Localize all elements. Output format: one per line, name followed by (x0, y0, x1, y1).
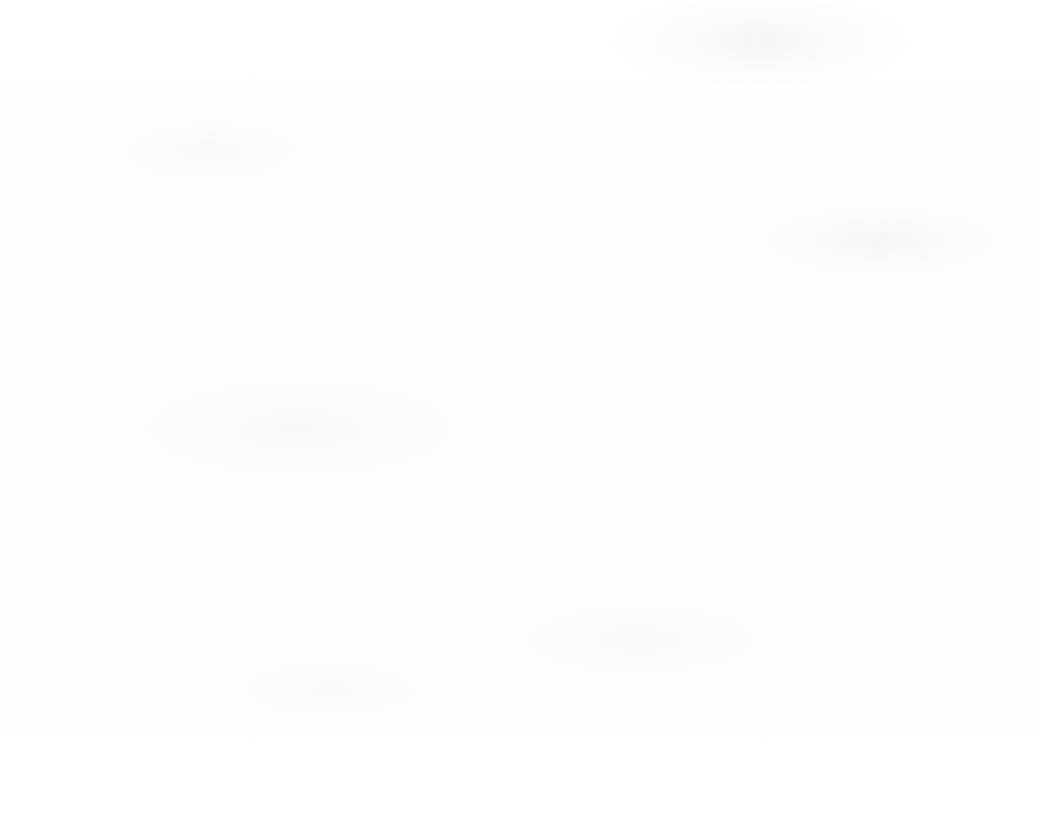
plot-area-phase-normalised: 1.5 1 0.5 0 -0.5 -1 -1.5 100 200 300 400… (0, 415, 520, 835)
x-tick-label: 300 (309, 355, 337, 374)
y-tick-labels: 1.5 1 0.5 0 -0.5 -1 -1.5 (73, 481, 102, 740)
data-traces-simulated-data (110, 54, 492, 344)
trace-line (110, 473, 492, 736)
trace-line (110, 482, 492, 720)
y-tick-label: -0.5 (571, 233, 600, 252)
x-tick-label: 200 (238, 355, 266, 374)
x-ticks (679, 340, 963, 348)
y-tick-labels: 1.5 1 0.5 0 -0.5 -1 -1.5 (571, 73, 600, 332)
trace-line (110, 77, 492, 319)
x-tick-label: 500 (949, 762, 977, 781)
panel-stdev-amplitude: Standard deviation of amplitude, STI=13.… (520, 415, 1041, 835)
x-tick-label: 400 (878, 355, 906, 374)
y-tick-label: -1 (87, 681, 102, 700)
x-ticks (181, 749, 465, 757)
y-tick-labels: 0.4 0.3 0.2 0.1 (576, 451, 600, 689)
y-tick-label: -1.5 (73, 721, 102, 740)
axis-lines (608, 458, 1000, 755)
y-tick-label: 0.5 (78, 137, 102, 156)
y-tick-label: 0 (93, 193, 102, 212)
trace-line (110, 54, 492, 344)
x-tick-labels: 100 200 300 400 500 (665, 762, 977, 781)
data-traces-amplitude-normalised (608, 55, 990, 346)
y-tick-label: -0.5 (73, 641, 102, 660)
x-tick-label: 500 (451, 764, 479, 783)
trace-line (110, 477, 492, 731)
y-tick-label: -1 (87, 305, 102, 324)
x-tick-label: 500 (451, 355, 479, 374)
y-tick-label: 0.4 (576, 451, 600, 470)
panel-phase-normalised: Phase normalised pattern (z-score) relat… (0, 415, 520, 835)
y-tick-label: 1 (93, 521, 102, 540)
x-tick-label: 400 (380, 355, 408, 374)
x-tick-label: 500 (949, 355, 977, 374)
trace-line (608, 73, 990, 328)
y-tick-label: -1 (585, 273, 600, 292)
trace-line (110, 479, 492, 735)
y-tick-label: 0.3 (576, 524, 600, 543)
y-tick-label: 1 (591, 113, 600, 132)
trace-line (110, 481, 492, 735)
trace-line (110, 472, 492, 755)
y-tick-label: -0.5 (73, 249, 102, 268)
trace-line (608, 71, 990, 316)
y-tick-label: 1.5 (576, 73, 600, 92)
y-tick-label: -1.5 (571, 313, 600, 332)
trace-line (110, 79, 492, 312)
y-tick-label: 1 (93, 81, 102, 100)
x-tick-label: 300 (807, 762, 835, 781)
x-tick-labels: 100 200 300 400 500 (665, 355, 977, 374)
x-tick-label: 400 (878, 762, 906, 781)
y-tick-label: 0.5 (78, 561, 102, 580)
y-tick-label: 0 (591, 193, 600, 212)
y-ticks (608, 460, 616, 679)
trace-line (608, 55, 990, 346)
data-traces-phase-normalised (110, 469, 492, 755)
x-tick-label: 100 (167, 355, 195, 374)
stdev-curve (608, 474, 997, 752)
x-tick-label: 200 (736, 355, 764, 374)
x-tick-labels: 100 200 300 400 500 (167, 355, 479, 374)
x-tick-label: 300 (807, 355, 835, 374)
x-tick-label: 100 (167, 764, 195, 783)
y-tick-labels: 1 0.5 0 -0.5 -1 (73, 81, 102, 324)
x-ticks (181, 340, 465, 348)
x-tick-label: 200 (238, 764, 266, 783)
y-tick-label: 0.5 (576, 153, 600, 172)
axis-lines (110, 55, 492, 348)
y-ticks (110, 490, 118, 730)
plot-area-stdev-amplitude: 0.4 0.3 0.2 0.1 100 200 300 400 500 (520, 415, 1041, 835)
y-tick-label: 0.2 (576, 597, 600, 616)
x-tick-label: 100 (665, 762, 693, 781)
plot-area-amplitude-normalised: 1.5 1 0.5 0 -0.5 -1 -1.5 100 200 300 400… (520, 0, 1041, 415)
trace-line (110, 85, 492, 308)
x-tick-label: 100 (665, 355, 693, 374)
panel-simulated-data: Simulated data pattern (units) samples 1… (0, 0, 520, 415)
axis-lines (608, 55, 990, 348)
x-ticks (679, 747, 963, 755)
y-tick-label: 0.1 (576, 670, 600, 689)
trace-line (110, 479, 492, 728)
panel-amplitude-normalised: Amplitude normalised pattern (z-score) s… (520, 0, 1041, 415)
x-tick-label: 300 (309, 764, 337, 783)
y-ticks (608, 82, 616, 322)
x-tick-label: 400 (380, 764, 408, 783)
plot-area-simulated-data: 1 0.5 0 -0.5 -1 100 200 300 400 500 (0, 0, 520, 415)
x-tick-label: 200 (736, 762, 764, 781)
x-tick-labels: 100 200 300 400 500 (167, 764, 479, 783)
y-tick-label: 1.5 (78, 481, 102, 500)
y-tick-label: 0 (93, 601, 102, 620)
